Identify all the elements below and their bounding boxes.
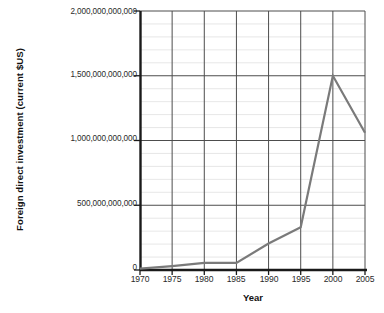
x-tick-label: 2005 bbox=[345, 274, 384, 284]
chart-figure: Foreign direct investment (current $US) … bbox=[0, 0, 384, 313]
x-axis-tick-labels: 1970 1975 1980 1985 1990 1995 2000 2005 bbox=[0, 0, 384, 313]
x-axis-title: Year bbox=[140, 292, 366, 303]
